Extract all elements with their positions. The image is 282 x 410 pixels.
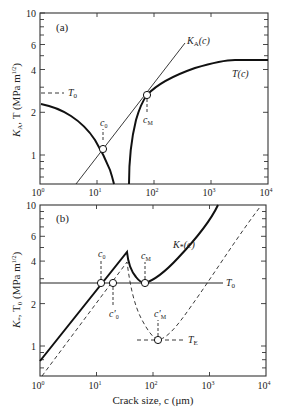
figure: 10 6 4 2 1 100 101 102 103 104 (a) KA, T… — [0, 0, 282, 410]
panel-b-c0-label: c0 — [98, 248, 105, 260]
panel-a-ytick-4: 4 — [31, 65, 36, 76]
panel-a-ylabel: KA, T (MPa m1/2) — [10, 63, 24, 138]
panel-b-c0-marker — [97, 279, 104, 286]
panel-b-Kstar-label: K*(c) — [172, 239, 195, 252]
panel-b: 10 6 4 2 1 100 101 102 103 104 Crack siz… — [10, 200, 271, 407]
panel-a-ytick-2: 2 — [31, 107, 36, 118]
panel-b-ytick-10: 10 — [26, 200, 36, 211]
svg-text:100: 100 — [32, 380, 45, 391]
panel-a-KA-label: KA(c) — [186, 35, 211, 48]
panel-a: 10 6 4 2 1 100 101 102 103 104 (a) KA, T… — [10, 8, 273, 198]
panel-b-xtick-labels: 100 101 102 103 104 — [32, 380, 271, 391]
panel-b-ytick-2: 2 — [31, 299, 36, 310]
panel-b-dashed-curve — [42, 207, 260, 376]
panel-b-c0prime-label: c′0 — [109, 308, 119, 320]
panel-b-cM-label: cM — [141, 250, 151, 262]
panel-a-cM-label: cM — [143, 114, 153, 126]
svg-text:101: 101 — [89, 187, 102, 198]
panel-b-cMprime-marker — [154, 336, 161, 343]
panel-a-c0-label: c0 — [100, 117, 107, 129]
panel-b-ytick-1: 1 — [31, 341, 36, 352]
svg-text:103: 103 — [202, 380, 215, 391]
panel-b-ytick-4: 4 — [31, 256, 36, 267]
panel-b-xlabel: Crack size, c (μm) — [112, 394, 193, 407]
svg-text:103: 103 — [203, 187, 216, 198]
svg-text:101: 101 — [89, 380, 102, 391]
panel-a-ytick-10: 10 — [26, 8, 36, 19]
panel-a-ytick-1: 1 — [31, 150, 36, 161]
panel-a-ytick-6: 6 — [31, 40, 36, 51]
svg-text:102: 102 — [145, 380, 158, 391]
panel-b-T0-label: T0 — [226, 277, 236, 290]
panel-b-cMprime-label: c′M — [154, 308, 167, 320]
panel-b-tag: (b) — [56, 212, 69, 225]
panel-b-frame — [40, 205, 266, 376]
panel-b-ylabel: K*, T0 (MPa m1/2) — [10, 252, 24, 330]
panel-a-cM-marker — [143, 91, 150, 98]
panel-b-TE-label: TE — [188, 334, 198, 347]
panel-b-ytick-6: 6 — [31, 231, 36, 242]
panel-b-xticks — [97, 205, 210, 376]
panel-a-xticks — [97, 13, 211, 184]
panel-a-tag: (a) — [56, 21, 69, 34]
panel-a-Tc-label: T(c) — [232, 68, 249, 80]
svg-text:102: 102 — [146, 187, 159, 198]
panel-b-c0prime-marker — [109, 279, 116, 286]
panel-a-c0-marker — [99, 145, 106, 152]
svg-text:104: 104 — [258, 380, 271, 391]
svg-text:104: 104 — [260, 187, 273, 198]
svg-text:100: 100 — [32, 187, 45, 198]
panel-a-xtick-labels: 100 101 102 103 104 — [32, 187, 273, 198]
panel-a-T0-label: T0 — [68, 87, 78, 100]
panel-b-cM-marker — [141, 279, 148, 286]
panel-a-Tc-left-curve — [41, 104, 114, 184]
